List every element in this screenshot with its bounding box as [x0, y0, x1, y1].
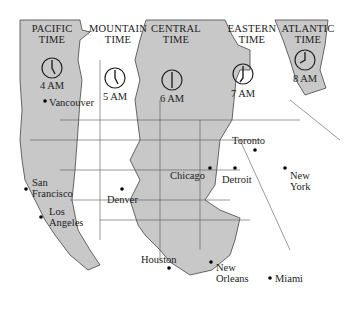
- city-houston: Houston: [141, 254, 177, 265]
- zone-time-eastern: 7 AM: [228, 88, 258, 99]
- zone-title-central: CENTRALTIME: [146, 23, 206, 45]
- zone-time-atlantic: 8 AM: [290, 73, 320, 84]
- pacific-zone: [20, 20, 100, 270]
- city-detroit: Detroit: [222, 174, 252, 185]
- zone-title-eastern: EASTERNTIME: [222, 23, 282, 45]
- city-denver: Denver: [107, 194, 138, 205]
- city-chicago: Chicago: [170, 170, 205, 181]
- city-vancouver: Vancouver: [49, 97, 94, 108]
- city-san-francisco: San Francisco: [32, 177, 73, 199]
- zone-time-mountain: 5 AM: [100, 91, 130, 102]
- zone-title-mountain: MOUNTAINTIME: [88, 23, 148, 45]
- central-zone: [130, 20, 250, 275]
- zone-title-pacific: PACIFICTIME: [22, 23, 82, 45]
- city-los-angeles: Los Angeles: [49, 206, 83, 228]
- city-toronto: Toronto: [232, 135, 265, 146]
- zone-title-atlantic: ATLANTICTIME: [278, 23, 338, 45]
- city-miami: Miami: [275, 273, 303, 284]
- clock-icon-mountain: [105, 68, 125, 88]
- city-new-orleans: New Orleans: [216, 262, 249, 284]
- city-new-york: New York: [290, 170, 311, 192]
- time-zone-map: [0, 0, 351, 317]
- zone-time-central: 6 AM: [157, 93, 187, 104]
- zone-time-pacific: 4 AM: [37, 80, 67, 91]
